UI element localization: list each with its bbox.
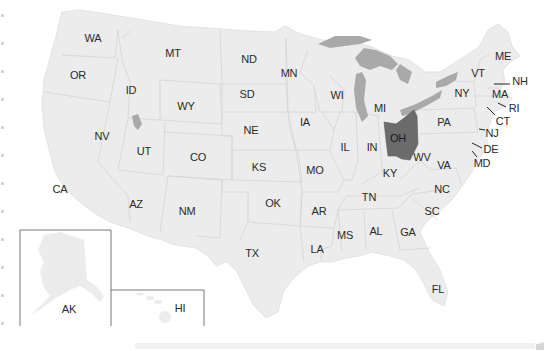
state-label-mo[interactable]: MO (306, 164, 323, 176)
edge-dot (1, 126, 4, 129)
state-label-il[interactable]: IL (341, 141, 350, 153)
state-label-in[interactable]: IN (367, 141, 378, 153)
state-label-nm[interactable]: NM (179, 205, 196, 217)
state-label-me[interactable]: ME (495, 50, 511, 62)
state-label-nd[interactable]: ND (241, 53, 257, 65)
state-label-al[interactable]: AL (369, 225, 382, 237)
edge-dot (1, 182, 4, 185)
state-label-ar[interactable]: AR (312, 205, 327, 217)
state-label-md[interactable]: MD (474, 157, 491, 169)
hawaii-inset (111, 290, 204, 326)
state-label-nv[interactable]: NV (95, 130, 110, 142)
state-label-nc[interactable]: NC (434, 183, 450, 195)
state-label-mi[interactable]: MI (374, 102, 386, 114)
state-label-hi[interactable]: HI (175, 302, 186, 314)
state-label-tn[interactable]: TN (362, 191, 376, 203)
edge-dot (1, 238, 4, 241)
state-label-ga[interactable]: GA (400, 226, 416, 238)
state-label-id[interactable]: ID (126, 84, 137, 96)
us-map (0, 0, 547, 351)
edge-dot (1, 98, 4, 101)
state-label-va[interactable]: VA (437, 159, 450, 171)
state-label-ky[interactable]: KY (383, 167, 397, 179)
state-label-pa[interactable]: PA (437, 116, 450, 128)
state-label-tx[interactable]: TX (245, 247, 259, 259)
edge-dot (1, 14, 4, 17)
bottom-bar (135, 343, 535, 349)
state-label-mt[interactable]: MT (165, 47, 180, 59)
state-label-la[interactable]: LA (310, 243, 323, 255)
state-label-co[interactable]: CO (190, 151, 206, 163)
state-label-az[interactable]: AZ (129, 198, 143, 210)
state-label-wa[interactable]: WA (85, 32, 102, 44)
state-label-nj[interactable]: NJ (485, 127, 498, 139)
state-label-mn[interactable]: MN (281, 67, 298, 79)
state-label-ut[interactable]: UT (137, 145, 151, 157)
state-label-wv[interactable]: WV (413, 151, 430, 163)
state-label-ak[interactable]: AK (62, 303, 76, 315)
state-label-ma[interactable]: MA (492, 88, 508, 100)
state-label-ks[interactable]: KS (252, 161, 266, 173)
state-label-ri[interactable]: RI (509, 102, 520, 114)
state-label-wy[interactable]: WY (177, 100, 194, 112)
edge-dot (1, 322, 4, 325)
state-label-oh[interactable]: OH (390, 132, 406, 144)
state-label-wi[interactable]: WI (330, 89, 343, 101)
state-label-ne[interactable]: NE (244, 124, 259, 136)
state-label-ca[interactable]: CA (53, 183, 68, 195)
state-label-sc[interactable]: SC (425, 205, 440, 217)
state-label-nh[interactable]: NH (512, 75, 528, 87)
state-label-de[interactable]: DE (484, 143, 499, 155)
edge-dot (1, 294, 4, 297)
edge-dot (1, 210, 4, 213)
state-label-sd[interactable]: SD (240, 88, 255, 100)
state-label-ct[interactable]: CT (496, 115, 510, 127)
edge-dot (1, 42, 4, 45)
state-label-or[interactable]: OR (70, 69, 86, 81)
state-label-fl[interactable]: FL (432, 283, 444, 295)
state-label-ny[interactable]: NY (455, 87, 470, 99)
edge-dot (1, 154, 4, 157)
state-label-vt[interactable]: VT (471, 67, 485, 79)
state-label-ok[interactable]: OK (265, 197, 281, 209)
state-label-ia[interactable]: IA (300, 116, 310, 128)
edge-dot (1, 266, 4, 269)
state-label-ms[interactable]: MS (337, 229, 353, 241)
edge-dot (1, 70, 4, 73)
